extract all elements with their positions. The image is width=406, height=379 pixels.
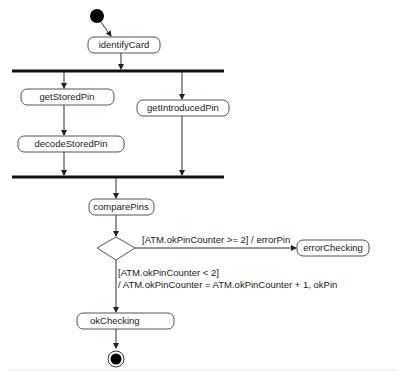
action-decode-stored-pin[interactable]: decodeStoredPin	[18, 136, 124, 152]
activity-diagram: identifyCard getStoredPin decodeStoredPi…	[0, 0, 406, 379]
action-ok-checking[interactable]: okChecking	[77, 313, 174, 329]
action-identify-card[interactable]: identifyCard	[88, 37, 160, 53]
error-guard-label: [ATM.okPinCounter >= 2] / errorPin	[142, 234, 290, 245]
decode-stored-pin-label: decodeStoredPin	[35, 138, 108, 149]
ok-checking-label: okChecking	[90, 315, 140, 326]
error-checking-label: errorChecking	[303, 242, 363, 253]
action-compare-pins[interactable]: comparePins	[89, 199, 154, 215]
identify-card-label: identifyCard	[99, 39, 150, 50]
action-get-introduced-pin[interactable]: getIntroducedPin	[137, 100, 229, 116]
final-node	[108, 351, 124, 367]
get-introduced-pin-label: getIntroducedPin	[147, 102, 219, 113]
ok-guard-line2: / ATM.okPinCounter = ATM.okPinCounter + …	[118, 279, 337, 290]
get-stored-pin-label: getStoredPin	[40, 91, 95, 102]
action-error-checking[interactable]: errorChecking	[297, 240, 369, 256]
edge-start-identify	[101, 22, 111, 36]
compare-pins-label: comparePins	[93, 201, 149, 212]
action-get-stored-pin[interactable]: getStoredPin	[21, 89, 114, 105]
ok-guard-line1: [ATM.okPinCounter < 2]	[118, 267, 219, 278]
initial-node	[90, 9, 104, 23]
decision-node	[97, 237, 135, 260]
